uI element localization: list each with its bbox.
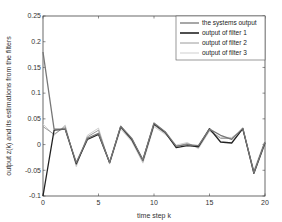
- x-tick-label: 20: [261, 199, 269, 206]
- legend-label: output of filter 3: [202, 49, 247, 57]
- x-axis-label: time step k: [137, 212, 171, 220]
- y-tick-label: -0.05: [25, 167, 41, 174]
- y-tick-label: 0: [37, 141, 41, 148]
- x-tick-label: 5: [97, 199, 101, 206]
- line-chart: -0.1-0.0500.050.10.150.20.2505101520 tim…: [0, 0, 282, 222]
- legend-label: output of filter 1: [202, 29, 247, 37]
- y-tick-label: 0.25: [27, 12, 41, 19]
- legend: the systems outputoutput of filter 1outp…: [176, 16, 265, 60]
- y-tick-label: -0.1: [29, 192, 41, 199]
- x-tick-label: 15: [206, 199, 214, 206]
- x-tick-label: 0: [41, 199, 45, 206]
- y-tick-label: 0.2: [31, 38, 41, 45]
- x-tick-label: 10: [150, 199, 158, 206]
- legend-label: the systems output: [202, 19, 257, 27]
- y-tick-label: 0.1: [31, 89, 41, 96]
- y-tick-label: 0.05: [27, 115, 41, 122]
- y-axis-label: output z(k) and its estimations from the…: [5, 36, 13, 176]
- legend-label: output of filter 2: [202, 39, 247, 47]
- y-tick-label: 0.15: [27, 64, 41, 71]
